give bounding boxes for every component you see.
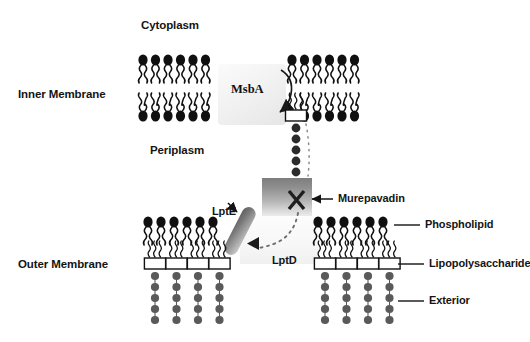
periplasm-label: Periplasm bbox=[150, 144, 204, 156]
cytoplasm-label: Cytoplasm bbox=[141, 19, 199, 31]
lptd-label: LptD bbox=[272, 254, 297, 266]
legend-lipopolysaccharide-label: Lipopolysaccharide bbox=[429, 257, 530, 269]
legend-phospholipid-label: Phospholipid bbox=[425, 218, 493, 230]
lps-insertion-path bbox=[247, 213, 298, 250]
diagram-vectors bbox=[0, 0, 530, 342]
inner-membrane-label: Inner Membrane bbox=[18, 88, 105, 100]
outer-membrane-right-sugar-chains bbox=[321, 272, 394, 324]
lpte-label: LptE bbox=[212, 205, 236, 217]
blockade-x-mark bbox=[289, 191, 304, 209]
outer-membrane-left-sugar-chains bbox=[151, 272, 224, 324]
inner-membrane-left-leaflet bbox=[138, 54, 210, 121]
lps-in-transit bbox=[286, 93, 307, 176]
diagram-canvas: MsbA bbox=[0, 0, 530, 342]
murepavadin-label: Murepavadin bbox=[338, 192, 405, 204]
outer-membrane-label: Outer Membrane bbox=[18, 258, 108, 270]
legend-exterior-label: Exterior bbox=[429, 294, 470, 306]
periplasm-transit-dots bbox=[306, 124, 309, 176]
